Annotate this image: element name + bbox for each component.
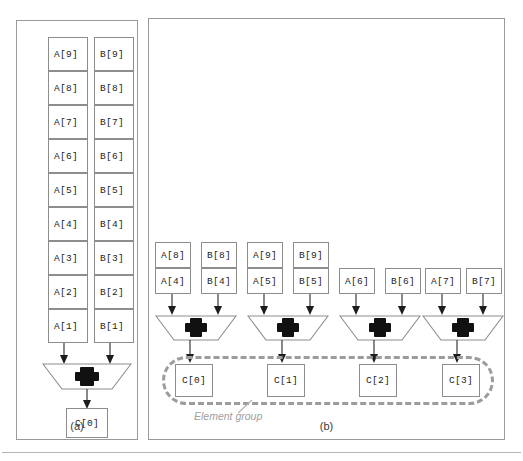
panel-b-lane1-arrow-a: [258, 294, 270, 316]
panel-a-cell-b4: B[4]: [94, 207, 134, 241]
panel-a-cell-a9: A[9]: [48, 37, 88, 71]
panel-b-lane3-arrow-b: [477, 294, 489, 316]
panel-a-arrow-a: [57, 343, 71, 365]
panel-a-cell-b3: B[3]: [94, 241, 134, 275]
panel-b-lane1-adder: [247, 315, 329, 341]
panel-a-arrow-b: [103, 343, 117, 365]
panel-b-lane0-adder: [155, 315, 237, 341]
panel-a-cell-a6: A[6]: [48, 139, 88, 173]
panel-b-lane0-arrow-a: [166, 294, 178, 316]
panel-a-cell-a2: A[2]: [48, 275, 88, 309]
panel-a-cell-a1: A[1]: [48, 309, 88, 343]
panel-b-lane1-arrow-b: [304, 294, 316, 316]
panel-b-lane3-b: B[7]: [466, 268, 502, 294]
panel-a-adder: [42, 363, 132, 390]
panel-b-lane0-a-bottom: A[4]: [155, 268, 191, 294]
panel-a-caption: (a): [16, 420, 138, 432]
figure-canvas: A[9] A[8] A[7] A[6] A[5] A[4] A[3] A[2] …: [0, 0, 523, 461]
panel-a-cell-a7: A[7]: [48, 105, 88, 139]
panel-b-lane1-b-bottom: B[5]: [293, 268, 329, 294]
panel-b-lane3-a: A[7]: [425, 268, 461, 294]
panel-a-cell-b2: B[2]: [94, 275, 134, 309]
panel-b-lane2-a: A[6]: [339, 268, 375, 294]
panel-b-lane2-arrow-b: [396, 294, 408, 316]
panel-a-cell-b9: B[9]: [94, 37, 134, 71]
panel-a-cell-a5: A[5]: [48, 173, 88, 207]
panel-b-lane1-a-top: A[9]: [247, 242, 283, 268]
panel-b-lane0-b-bottom: B[4]: [201, 268, 237, 294]
panel-a-cell-a3: A[3]: [48, 241, 88, 275]
panel-b-lane3-adder: [422, 315, 504, 341]
panel-b-lane0-arrow-b: [212, 294, 224, 316]
panel-a-cell-b5: B[5]: [94, 173, 134, 207]
element-group-outline: [162, 356, 494, 405]
panel-a-cell-b7: B[7]: [94, 105, 134, 139]
panel-a-cell-b1: B[1]: [94, 309, 134, 343]
panel-b-lane1-a-bottom: A[5]: [247, 268, 283, 294]
panel-b-lane1-b-top: B[9]: [293, 242, 329, 268]
panel-b-lane0-b-top: B[8]: [201, 242, 237, 268]
panel-a-cell-a4: A[4]: [48, 207, 88, 241]
panel-a-cell-b6: B[6]: [94, 139, 134, 173]
panel-b-lane3-arrow-a: [436, 294, 448, 316]
panel-a-cell-a8: A[8]: [48, 71, 88, 105]
panel-b-lane2-b: B[6]: [385, 268, 421, 294]
panel-b-lane2-adder: [339, 315, 421, 341]
footer-divider: [2, 452, 521, 453]
panel-a-arrow-result: [80, 389, 94, 410]
panel-b-caption: (b): [148, 420, 505, 432]
panel-a-cell-b8: B[8]: [94, 71, 134, 105]
panel-b-lane0-a-top: A[8]: [155, 242, 191, 268]
panel-b-lane2-arrow-a: [350, 294, 362, 316]
